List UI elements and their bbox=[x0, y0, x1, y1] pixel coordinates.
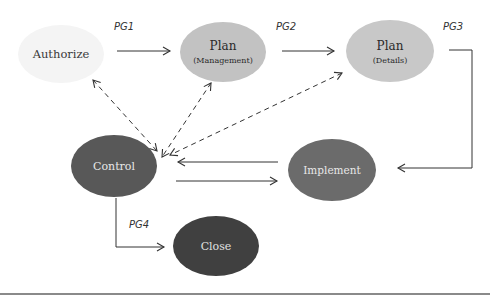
edge-label-pg4: PG4 bbox=[129, 219, 149, 230]
node-authorize-label: Authorize bbox=[32, 47, 90, 61]
node-close: Close bbox=[173, 216, 259, 276]
node-plan-details: Plan (Details) bbox=[346, 20, 434, 82]
node-plan-management: Plan (Management) bbox=[180, 22, 266, 82]
project-process-diagram: PG1 PG2 PG3 PG4 Authorize Plan (Manageme… bbox=[0, 0, 497, 298]
edge-label-pg1: PG1 bbox=[114, 21, 134, 32]
node-plan-management-sublabel: (Management) bbox=[193, 56, 253, 65]
node-plan-management-label: Plan bbox=[210, 39, 237, 53]
bottom-rule bbox=[0, 293, 490, 295]
node-plan-details-sublabel: (Details) bbox=[373, 56, 408, 65]
node-implement: Implement bbox=[288, 139, 376, 201]
node-authorize: Authorize bbox=[18, 25, 104, 83]
node-control: Control bbox=[71, 135, 157, 197]
edge-label-pg3: PG3 bbox=[443, 21, 463, 32]
dashed-arrow-plan-management-control bbox=[162, 83, 211, 157]
node-close-label: Close bbox=[201, 240, 232, 253]
node-plan-details-label: Plan bbox=[377, 39, 404, 53]
node-control-label: Control bbox=[93, 160, 135, 173]
node-implement-label: Implement bbox=[303, 164, 361, 176]
edge-label-pg2: PG2 bbox=[276, 21, 296, 32]
